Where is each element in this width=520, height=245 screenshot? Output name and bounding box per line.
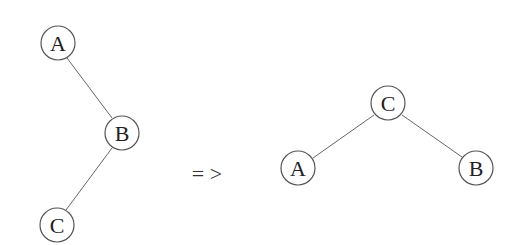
svg-text:A: A <box>290 156 306 181</box>
node-b-after: B <box>459 151 493 185</box>
edge-a-b <box>67 58 112 118</box>
edge-c-b <box>402 115 462 157</box>
after-tree: C A B <box>281 86 493 185</box>
edge-b-c <box>66 148 112 210</box>
svg-text:B: B <box>469 156 484 181</box>
edge-c-a <box>313 115 374 158</box>
node-c-before: C <box>40 208 74 242</box>
node-b-before: B <box>105 116 139 150</box>
node-a-after: A <box>281 151 315 185</box>
svg-text:A: A <box>50 31 66 56</box>
before-tree: A B C <box>40 26 139 242</box>
tree-rotation-diagram: A B C = > C A <box>0 0 520 245</box>
diagram-svg: A B C = > C A <box>0 0 520 245</box>
node-c-after: C <box>371 86 405 120</box>
node-a-before: A <box>41 26 75 60</box>
svg-text:C: C <box>381 91 396 116</box>
svg-text:B: B <box>115 121 130 146</box>
svg-text:C: C <box>50 213 65 238</box>
transform-arrow: = > <box>192 161 222 186</box>
